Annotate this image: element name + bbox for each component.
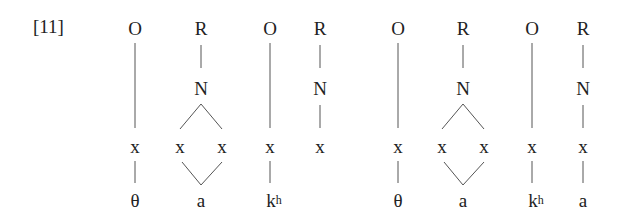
segment: a: [197, 191, 205, 210]
skeletal-slot: x: [578, 137, 588, 156]
onset-label: O: [391, 19, 405, 38]
skeletal-slot: x: [217, 137, 227, 156]
rhyme-label: R: [577, 19, 590, 38]
rhyme-label: R: [457, 19, 470, 38]
onset-label: O: [128, 19, 142, 38]
segment: a: [579, 191, 587, 210]
skeletal-slot: x: [527, 137, 537, 156]
skeletal-slot: x: [479, 137, 489, 156]
skeletal-slot: x: [175, 137, 185, 156]
segment-branch: [444, 162, 484, 185]
nucleus-branch: [442, 104, 484, 129]
rhyme-label: R: [314, 19, 327, 38]
skeletal-slot: x: [437, 137, 447, 156]
skeletal-slot: x: [315, 137, 325, 156]
nucleus-label: N: [194, 79, 208, 98]
nucleus-label: N: [456, 79, 470, 98]
skeletal-slot: x: [393, 137, 403, 156]
rhyme-label: R: [195, 19, 208, 38]
onset-label: O: [263, 19, 277, 38]
segment: θ: [393, 191, 402, 210]
skeletal-slot: x: [130, 137, 140, 156]
segment: a: [459, 191, 467, 210]
nucleus-label: N: [313, 79, 327, 98]
nucleus-label: N: [576, 79, 590, 98]
skeletal-slot: x: [265, 137, 275, 156]
segment-aspirated: kh: [266, 191, 282, 210]
onset-label: O: [525, 19, 539, 38]
segment-branch: [182, 162, 222, 185]
segment-aspirated: kh: [528, 191, 544, 210]
nucleus-branch: [180, 104, 222, 129]
segment: θ: [130, 191, 139, 210]
